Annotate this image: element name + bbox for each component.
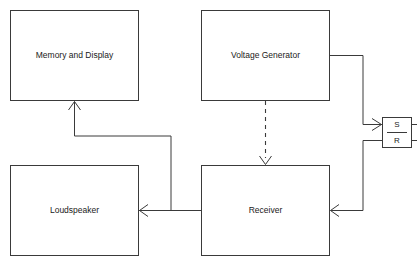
connector-line xyxy=(330,56,382,125)
block-loudspeaker[interactable]: Loudspeaker xyxy=(11,166,139,256)
block-receiver[interactable]: Receiver xyxy=(202,166,330,256)
block-memory-and-display[interactable]: Memory and Display xyxy=(11,11,139,101)
connector-sr-latch-to-receiver xyxy=(331,141,383,217)
latch-reset-label: R xyxy=(394,136,400,145)
diagram-canvas: Memory and Display Voltage Generator Lou… xyxy=(0,0,420,264)
block-label: Voltage Generator xyxy=(231,50,300,60)
block-label: Memory and Display xyxy=(36,50,114,60)
block-label: Loudspeaker xyxy=(50,205,99,215)
connector-line xyxy=(331,141,383,211)
connector-receiver-to-loudspeaker xyxy=(139,205,201,217)
block-label: Receiver xyxy=(249,205,283,215)
connector-voltage-generator-to-receiver xyxy=(260,101,272,165)
connector-voltage-generator-to-sr-latch xyxy=(330,56,382,131)
latch-set-label: S xyxy=(394,120,399,129)
block-voltage-generator[interactable]: Voltage Generator xyxy=(202,11,330,101)
block-diagram: Memory and Display Voltage Generator Lou… xyxy=(0,0,420,264)
block-sr-latch[interactable]: S R xyxy=(377,118,417,148)
